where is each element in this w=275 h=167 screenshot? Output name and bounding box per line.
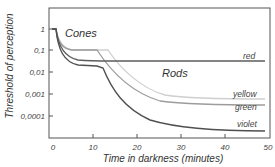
dark-adaptation-chart: 1 0,1 0,01 0,001 0,0001 0 10 20 30 40 50… xyxy=(0,0,275,167)
y-tick-0-0001: 0,0001 xyxy=(21,112,45,121)
series-label-violet: violet xyxy=(237,119,257,129)
x-tick-20: 20 xyxy=(132,143,142,152)
y-axis-ticks xyxy=(49,29,53,116)
x-tick-30: 30 xyxy=(177,143,186,152)
x-axis-ticks xyxy=(93,134,225,138)
x-tick-0: 0 xyxy=(51,143,56,152)
x-tick-50: 50 xyxy=(264,143,273,152)
series-label-red: red xyxy=(243,51,256,61)
x-axis-title: Time in darkness (minutes) xyxy=(103,153,224,164)
x-tick-10: 10 xyxy=(89,143,98,152)
curve-violet xyxy=(52,29,265,131)
y-tick-0-01: 0,01 xyxy=(29,68,45,77)
y-tick-1: 1 xyxy=(41,25,45,34)
y-axis-title: Threshold of perception xyxy=(4,13,15,119)
y-tick-0-1: 0,1 xyxy=(34,46,45,55)
rods-label: Rods xyxy=(162,67,188,79)
series-label-yellow: yellow xyxy=(232,89,257,99)
series-label-green: green xyxy=(235,102,257,112)
y-tick-0-001: 0,001 xyxy=(25,90,45,99)
x-tick-40: 40 xyxy=(221,143,230,152)
cones-label: Cones xyxy=(65,27,97,39)
